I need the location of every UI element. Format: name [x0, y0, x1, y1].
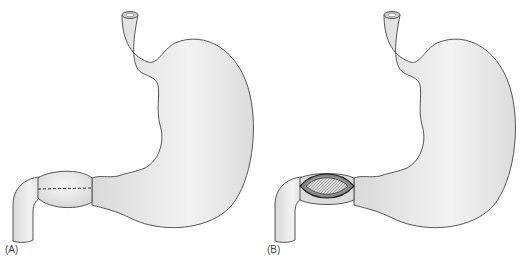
panel-label-a: (A)	[5, 244, 18, 255]
stomach-a	[13, 12, 253, 243]
pyloric-bulge	[38, 171, 92, 207]
panel-label-b: (B)	[267, 244, 280, 255]
stomach-diagram	[0, 0, 524, 261]
stomach-b	[275, 12, 515, 243]
